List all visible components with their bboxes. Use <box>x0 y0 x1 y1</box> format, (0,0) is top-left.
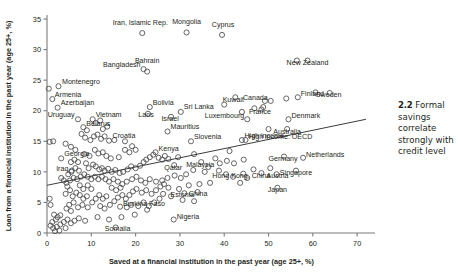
data-point <box>52 212 57 217</box>
data-point-labeled <box>106 138 111 143</box>
data-point <box>76 216 81 221</box>
data-point <box>51 139 56 144</box>
data-point <box>96 177 101 182</box>
point-label: High income: OECD <box>248 133 312 141</box>
data-point <box>75 160 80 165</box>
y-tick-label: 35 <box>33 15 41 24</box>
y-tick-label: 0 <box>37 229 41 238</box>
data-point-labeled <box>55 105 60 110</box>
data-point-labeled <box>81 125 86 130</box>
data-point <box>132 212 137 217</box>
point-label: Croatia <box>113 132 136 140</box>
data-point <box>103 177 108 182</box>
data-point <box>68 160 73 165</box>
x-tick-label: 70 <box>353 239 361 248</box>
y-tick-label: 25 <box>33 76 41 85</box>
data-point <box>158 184 163 189</box>
data-point-labeled <box>301 155 306 160</box>
data-point-labeled <box>268 98 273 103</box>
point-label: Somalia <box>105 225 131 233</box>
data-point <box>207 180 212 185</box>
data-point-labeled <box>147 105 152 110</box>
point-label: Bahrain <box>135 57 160 65</box>
caption-number: 2.2 <box>398 100 413 110</box>
data-point <box>107 202 112 207</box>
x-tick-label: 30 <box>176 239 184 248</box>
point-label: Iraq <box>56 165 68 173</box>
point-label: Qatar <box>164 164 182 172</box>
point-label: Iran, Islamic Rep. <box>113 19 168 27</box>
x-tick-label: 20 <box>131 239 139 248</box>
data-point-labeled <box>140 31 145 36</box>
data-point-labeled <box>56 84 61 89</box>
data-point-labeled <box>59 156 64 161</box>
data-point <box>100 196 105 201</box>
x-tick-label: 60 <box>309 239 317 248</box>
point-label: Mongolia <box>172 18 201 26</box>
point-label: China <box>189 190 208 198</box>
point-label: Slovenia <box>194 133 221 141</box>
y-tick-label: 10 <box>33 168 41 177</box>
data-point <box>134 186 139 191</box>
data-point <box>48 202 53 207</box>
data-point <box>104 194 109 199</box>
x-tick-label: 40 <box>220 239 228 248</box>
data-point <box>149 191 154 196</box>
point-label: Sri Lanka <box>184 103 214 111</box>
data-point <box>231 161 236 166</box>
data-point-labeled <box>295 95 300 100</box>
data-point <box>130 177 135 182</box>
data-point-labeled <box>184 30 189 35</box>
point-label: Canada <box>243 94 268 102</box>
data-point <box>138 178 143 183</box>
data-point <box>81 196 86 201</box>
point-label: Kuwait <box>223 96 244 104</box>
point-label: Sweden <box>316 91 342 99</box>
data-point-labeled <box>219 32 224 37</box>
point-label: France <box>249 108 271 116</box>
data-point <box>186 183 191 188</box>
data-point <box>85 205 90 210</box>
point-label: Germany <box>268 155 298 163</box>
data-point <box>77 183 82 188</box>
point-label: Vietnam <box>96 111 122 119</box>
y-tick-label: 5 <box>37 198 41 207</box>
point-label: Japan <box>268 186 287 194</box>
data-point <box>268 166 273 171</box>
data-point <box>74 190 79 195</box>
data-point-labeled <box>245 117 250 122</box>
figure-caption: 2.2 Formal savings correlate strongly wi… <box>398 100 458 158</box>
data-point <box>166 185 171 190</box>
data-point <box>217 161 222 166</box>
data-point <box>89 177 94 182</box>
point-label: Laos <box>138 111 154 119</box>
point-label: Nigeria <box>177 213 200 221</box>
data-point <box>68 221 73 226</box>
point-label: Denmark <box>291 112 320 120</box>
point-label: Netherlands <box>306 151 345 159</box>
data-point-labeled <box>178 109 183 114</box>
y-axis-title: Loan from a financial institution in the… <box>4 20 13 231</box>
x-axis-title: Saved at a financial institution in the … <box>109 257 315 266</box>
point-label: Austria <box>266 172 288 180</box>
data-point <box>58 222 63 227</box>
point-label: Bolivia <box>153 99 174 107</box>
data-point <box>165 175 170 180</box>
x-tick-label: 50 <box>264 239 272 248</box>
data-point <box>147 155 152 160</box>
data-point <box>106 217 111 222</box>
data-point <box>83 218 88 223</box>
data-point-labeled <box>75 117 80 122</box>
data-point <box>95 215 100 220</box>
data-point <box>161 191 166 196</box>
data-point <box>102 134 107 139</box>
point-label: Luxembourg <box>205 112 244 120</box>
data-point <box>85 183 90 188</box>
data-point <box>67 202 72 207</box>
data-point <box>83 135 88 140</box>
point-label: New Zealand <box>287 59 329 67</box>
data-point <box>119 215 124 220</box>
data-point <box>184 172 189 177</box>
data-point <box>102 206 107 211</box>
data-point <box>67 188 72 193</box>
